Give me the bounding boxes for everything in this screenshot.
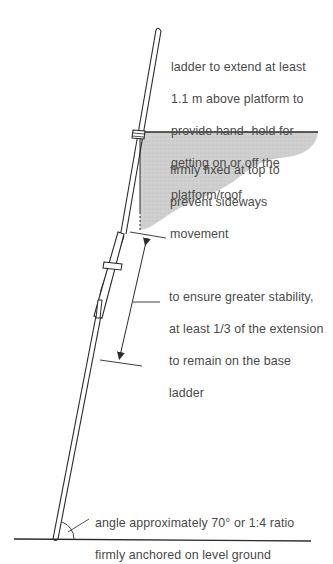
- base-ladder: [53, 232, 124, 541]
- overlap-dimension: [100, 232, 166, 366]
- label-base: angle approximately 70° or 1:4 ratio fir…: [95, 499, 294, 564]
- angle-indicator: [62, 519, 89, 539]
- label-fixing: firmly fixed at top to prevent sideways …: [170, 146, 280, 258]
- label-overlap: to ensure greater stability, at least 1/…: [169, 273, 323, 417]
